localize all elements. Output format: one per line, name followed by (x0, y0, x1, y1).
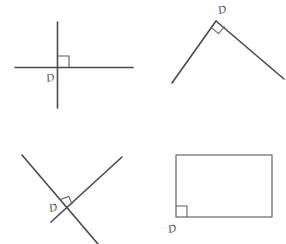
line-upper-left-to-lower-right (22, 155, 98, 244)
figure-oblique-crossing-lines: D (22, 155, 122, 244)
figure-rectangle: D (166, 155, 272, 235)
geometry-figures-svg: D D D D (0, 0, 286, 244)
figure-label-d: D (216, 2, 228, 16)
figure-label-d: D (47, 200, 59, 214)
figure-vertex-angle: D (172, 2, 284, 83)
line-lower-left-to-upper-right (51, 157, 122, 222)
right-angle-marker (176, 206, 187, 217)
rectangle-outline (176, 155, 272, 217)
right-angle-marker (58, 56, 69, 67)
figure-label-d: D (44, 71, 55, 85)
figure-label-d: D (166, 221, 178, 235)
worksheet-canvas: D D D D (0, 0, 286, 244)
figure-crossed-perpendicular-lines: D (15, 22, 133, 108)
left-ray (172, 21, 216, 83)
right-ray (216, 21, 284, 79)
